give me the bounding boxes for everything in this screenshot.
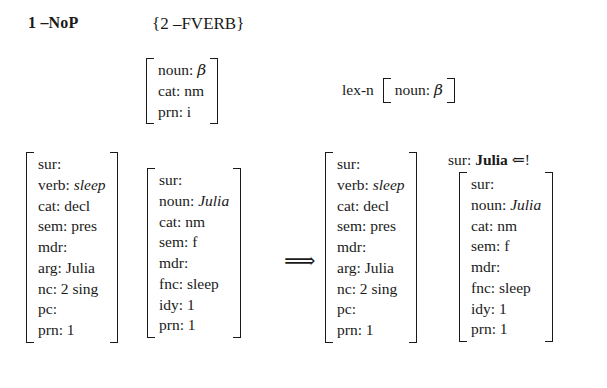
output-verb-avm: sur: verb: sleep cat: decl sem: pres mdr…	[325, 152, 417, 347]
avm-attr: idy:	[471, 300, 495, 317]
avm-value: 1	[188, 316, 196, 333]
avm-value: f	[504, 237, 509, 254]
avm-row: pc:	[337, 299, 405, 320]
avm-right-bracket	[545, 172, 553, 342]
avm-row: idy: 1	[159, 295, 229, 316]
avm-row: sur:	[337, 154, 405, 175]
avm-row: fnc: sleep	[471, 278, 541, 299]
avm-row: cat: nm	[471, 216, 541, 237]
output-noun-avm: sur: noun: Julia cat: nm sem: f mdr: fnc…	[459, 172, 553, 346]
avm-attr: pc:	[337, 300, 356, 317]
avm-value: Julia	[66, 259, 95, 276]
avm-attr: nc:	[38, 280, 57, 297]
avm-input-noun: sur: noun: Julia cat: nm sem: f mdr: fnc…	[147, 168, 241, 338]
avm-row: sem: pres	[38, 216, 106, 237]
avm-value: sleep	[187, 275, 219, 292]
avm-attr: mdr:	[337, 238, 366, 255]
avm-row: nc: 2 sing	[38, 279, 106, 300]
avm-left-bracket	[383, 78, 391, 103]
avm-rows: sur: verb: sleep cat: decl sem: pres mdr…	[34, 152, 110, 343]
avm-row: verb: sleep	[337, 175, 405, 196]
avm-attr: prn:	[159, 316, 184, 333]
avm-left-bracket	[147, 168, 155, 338]
avm-attr: noun:	[158, 61, 193, 78]
avm-attr: sur:	[159, 171, 182, 188]
avm-attr: noun:	[395, 81, 430, 98]
avm-value: 2 sing	[360, 280, 397, 297]
avm-row: sur:	[159, 170, 229, 191]
avm-input-verb: sur: verb: sleep cat: decl sem: pres mdr…	[26, 152, 118, 343]
output-surface-header: sur: Julia ⇐!	[448, 151, 530, 169]
avm-attr: pc:	[38, 300, 57, 317]
avm-attr: noun:	[471, 196, 506, 213]
avm-value: pres	[71, 217, 97, 234]
avm-value: β	[434, 81, 443, 99]
avm-attr: cat:	[159, 213, 181, 230]
avm-attr: cat:	[337, 197, 359, 214]
avm-row: noun: Julia	[159, 191, 229, 212]
avm-row: noun: β	[158, 60, 206, 81]
avm-row: mdr:	[38, 237, 106, 258]
avm-value: nm	[185, 213, 205, 230]
avm-row: cat: decl	[38, 196, 106, 217]
pattern-avm: noun: β cat: nm prn: i	[146, 58, 218, 128]
avm-attr: cat:	[471, 217, 493, 234]
avm-row: mdr:	[337, 237, 405, 258]
avm-row: noun: Julia	[471, 195, 541, 216]
avm-value: nm	[497, 217, 517, 234]
avm-attr: sem:	[337, 217, 366, 234]
avm-row: nc: 2 sing	[337, 279, 405, 300]
avm-attr: sur:	[337, 155, 360, 172]
avm-attr: sem:	[159, 233, 188, 250]
input-noun-avm: sur: noun: Julia cat: nm sem: f mdr: fnc…	[147, 168, 241, 342]
surface-value: Julia	[475, 151, 508, 168]
avm-attr: fnc:	[471, 279, 495, 296]
avm-row: mdr:	[159, 253, 229, 274]
avm-attr: noun:	[159, 192, 194, 209]
avm-attr: idy:	[159, 296, 183, 313]
avm-rows: sur: verb: sleep cat: decl sem: pres mdr…	[333, 152, 409, 343]
avm-rows: noun: β	[391, 78, 447, 103]
avm-value: 1	[187, 296, 195, 313]
avm-left-bracket	[146, 58, 154, 124]
avm-attr: arg:	[337, 259, 361, 276]
avm-attr: mdr:	[159, 254, 188, 271]
avm-row: verb: sleep	[38, 175, 106, 196]
avm-row: sur:	[471, 174, 541, 195]
avm-attr: verb:	[337, 176, 369, 193]
avm-value: Julia	[365, 259, 394, 276]
avm-value: f	[192, 233, 197, 250]
avm-right-bracket	[110, 152, 118, 343]
rule-name-label: 1 –NoP	[28, 14, 79, 32]
avm-attr: prn:	[471, 320, 496, 337]
avm-row: cat: nm	[159, 212, 229, 233]
avm-value: pres	[370, 217, 396, 234]
avm-attr: sem:	[38, 217, 67, 234]
avm-value: Julia	[198, 192, 229, 209]
avm-value: β	[197, 61, 206, 79]
avm-row: sur:	[38, 154, 106, 175]
avm-attr: verb:	[38, 176, 70, 193]
avm-row: prn: 1	[337, 320, 405, 341]
avm-right-bracket	[233, 168, 241, 338]
avm-row: idy: 1	[471, 299, 541, 320]
avm-value: Julia	[510, 196, 541, 213]
avm-value: i	[187, 103, 191, 120]
avm-rows: sur: noun: Julia cat: nm sem: f mdr: fnc…	[467, 172, 545, 342]
avm-left-bracket	[26, 152, 34, 343]
avm-row: noun: β	[395, 80, 443, 101]
avm-row: arg: Julia	[38, 258, 106, 279]
avm-value: 1	[67, 321, 75, 338]
avm-attr: mdr:	[471, 258, 500, 275]
avm-row: prn: 1	[159, 315, 229, 336]
avm-attr: nc:	[337, 280, 356, 297]
avm-attr: prn:	[38, 321, 63, 338]
avm-row: fnc: sleep	[159, 274, 229, 295]
avm-attr: prn:	[158, 103, 183, 120]
avm-right-bracket	[447, 78, 455, 103]
avm-value: 1	[366, 321, 374, 338]
lexical-entry-group: lex-n noun: β	[342, 78, 455, 103]
lex-n-label: lex-n	[342, 81, 374, 99]
avm-value: sleep	[74, 176, 106, 193]
avm-rows: noun: β cat: nm prn: i	[154, 58, 210, 124]
